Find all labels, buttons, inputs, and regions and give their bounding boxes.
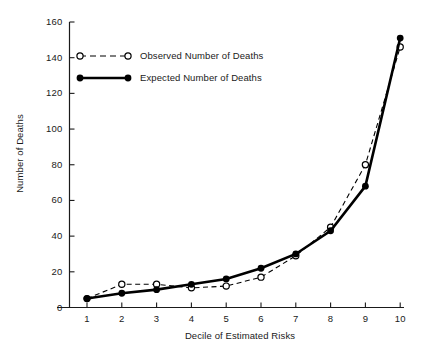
data-point-marker (327, 227, 334, 234)
y-tick-label: 160 (37, 16, 63, 27)
data-point-marker (118, 290, 125, 297)
data-point-marker (258, 274, 264, 280)
y-tick-label: 140 (37, 52, 63, 63)
legend-label-observed: Observed Number of Deaths (140, 50, 263, 61)
data-point-marker (188, 281, 195, 288)
legend-observed-marker-end (125, 53, 131, 59)
x-tick-label: 6 (253, 313, 269, 324)
legend-observed-marker-start (77, 53, 83, 59)
y-tick-label: 120 (37, 87, 63, 98)
legend-expected-marker-end (125, 75, 132, 82)
data-point-marker (84, 295, 91, 302)
x-tick-label: 2 (114, 313, 130, 324)
data-point-marker (362, 162, 368, 168)
y-tick-label: 60 (37, 194, 63, 205)
data-point-marker (223, 276, 230, 283)
x-axis-title: Decile of Estimated Risks (110, 330, 370, 341)
x-tick-label: 5 (218, 313, 234, 324)
legend-expected-marker-start (77, 75, 84, 82)
x-tick-label: 3 (149, 313, 165, 324)
x-tick-label: 1 (79, 313, 95, 324)
data-point-marker (397, 35, 404, 42)
x-tick-label: 8 (323, 313, 339, 324)
x-tick-label: 10 (392, 313, 408, 324)
data-point-marker (258, 265, 265, 272)
legend-label-expected: Expected Number of Deaths (140, 72, 262, 83)
chart-figure: Observed Number of Deaths Expected Numbe… (0, 0, 422, 355)
legend-marks (77, 53, 132, 82)
y-tick-label: 20 (37, 266, 63, 277)
x-tick-label: 9 (357, 313, 373, 324)
data-point-marker (119, 281, 125, 287)
y-tick-label: 80 (37, 159, 63, 170)
axes (57, 22, 404, 308)
y-axis-ticks (70, 22, 75, 272)
y-tick-label: 0 (37, 302, 63, 313)
x-axis-ticks (87, 303, 400, 308)
y-tick-label: 40 (37, 230, 63, 241)
data-point-marker (292, 251, 299, 258)
data-point-marker (223, 283, 229, 289)
y-tick-label: 100 (37, 123, 63, 134)
x-tick-label: 7 (288, 313, 304, 324)
y-axis-title: Number of Deaths (14, 99, 25, 209)
x-tick-label: 4 (183, 313, 199, 324)
data-point-marker (153, 286, 160, 293)
data-point-marker (362, 183, 369, 190)
